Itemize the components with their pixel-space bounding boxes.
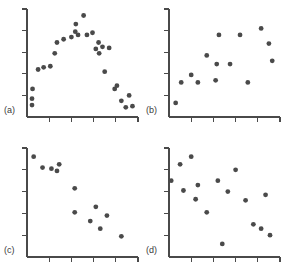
data-point — [61, 37, 66, 42]
data-point — [93, 204, 98, 209]
scatterplot-figure: (a)(b)(c)(d) — [0, 0, 284, 279]
scatter-panel-a: (a) — [0, 0, 142, 139]
data-point — [52, 51, 57, 56]
data-point — [217, 33, 222, 38]
data-points-a — [30, 13, 135, 110]
data-point — [55, 40, 60, 45]
data-point — [220, 242, 225, 247]
data-point — [105, 213, 110, 218]
panel-label-d: (d) — [146, 246, 157, 255]
data-point — [96, 40, 101, 45]
data-point — [76, 33, 81, 38]
data-point — [41, 65, 46, 70]
data-point — [72, 186, 77, 191]
data-points-d — [169, 154, 273, 246]
data-point — [36, 67, 41, 72]
panel-label-b: (b) — [146, 106, 157, 115]
data-points-c — [31, 154, 123, 238]
data-point — [215, 178, 220, 183]
data-point — [55, 168, 60, 173]
data-point — [72, 210, 77, 215]
data-point — [85, 33, 90, 38]
data-point — [31, 154, 36, 159]
data-point — [245, 80, 250, 85]
data-point — [90, 30, 95, 35]
data-point — [98, 226, 103, 231]
data-point — [270, 58, 275, 63]
data-point — [214, 62, 219, 67]
data-point — [73, 22, 78, 27]
scatter-plot-c — [0, 139, 142, 279]
panel-label-c: (c) — [4, 246, 15, 255]
data-point — [30, 96, 35, 101]
scatter-panel-d: (d) — [142, 139, 284, 279]
data-point — [267, 41, 272, 46]
data-point — [189, 154, 194, 159]
data-point — [88, 219, 93, 224]
data-point — [30, 103, 35, 108]
panel-label-a: (a) — [4, 106, 15, 115]
data-point — [57, 162, 62, 167]
data-points-b — [173, 26, 274, 105]
data-point — [102, 69, 107, 74]
data-point — [225, 189, 230, 194]
data-point — [189, 72, 194, 77]
data-point — [81, 13, 86, 18]
data-point — [30, 87, 35, 92]
data-point — [48, 64, 53, 69]
data-point — [238, 33, 243, 38]
data-point — [195, 80, 200, 85]
data-point — [40, 165, 45, 170]
data-point — [233, 167, 238, 172]
data-point — [243, 198, 248, 203]
data-point — [259, 26, 264, 31]
data-point — [173, 101, 178, 106]
data-point — [119, 234, 124, 239]
data-point — [100, 44, 105, 49]
data-point — [107, 45, 112, 50]
data-point — [193, 197, 198, 202]
scatter-plot-b — [142, 0, 284, 139]
data-point — [268, 233, 273, 238]
data-point — [213, 78, 218, 83]
data-point — [127, 93, 132, 98]
data-point — [119, 98, 124, 103]
data-point — [130, 104, 135, 109]
data-point — [115, 83, 120, 88]
data-point — [93, 47, 98, 52]
data-point — [97, 51, 102, 56]
data-point — [169, 178, 174, 183]
data-point — [228, 62, 233, 67]
scatter-plot-d — [142, 139, 284, 279]
data-point — [123, 105, 128, 110]
scatter-plot-a — [0, 0, 142, 139]
data-point — [251, 222, 256, 227]
data-point — [178, 162, 183, 167]
data-point — [181, 188, 186, 193]
data-point — [195, 183, 200, 188]
data-point — [204, 53, 209, 58]
scatter-panel-c: (c) — [0, 139, 142, 279]
scatter-panel-b: (b) — [142, 0, 284, 139]
data-point — [69, 35, 74, 40]
data-point — [49, 166, 54, 171]
data-point — [179, 80, 184, 85]
data-point — [259, 226, 264, 231]
data-point — [204, 210, 209, 215]
data-point — [263, 192, 268, 197]
